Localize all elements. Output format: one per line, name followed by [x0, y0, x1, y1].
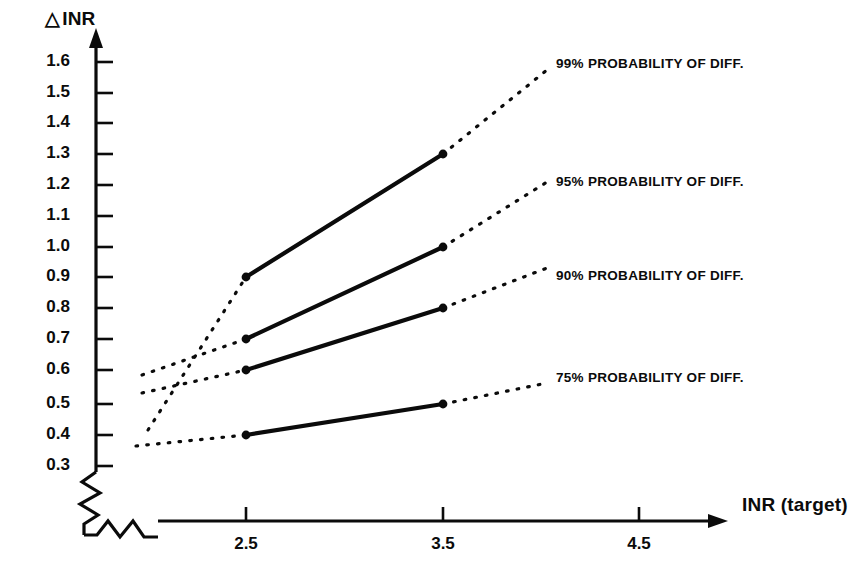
series-99-curve [148, 70, 547, 430]
series-label-99: 99% PROBABILITY OF DIFF. [556, 56, 744, 71]
x-axis [84, 507, 728, 537]
y-tick-label: 1.1 [22, 205, 70, 225]
data-point-marker [439, 400, 448, 409]
series-90-curve [142, 268, 547, 393]
y-tick-label: 1.4 [22, 112, 70, 132]
x-tick-label: 3.5 [413, 534, 473, 554]
y-tick-label: 1.2 [22, 174, 70, 194]
y-tick-label: 0.6 [22, 359, 70, 379]
y-tick-label: 0.9 [22, 266, 70, 286]
y-tick-label: 1.6 [22, 51, 70, 71]
y-tick-label: 0.3 [22, 455, 70, 475]
series-label-90: 90% PROBABILITY OF DIFF. [556, 268, 744, 283]
data-point-marker [242, 366, 251, 375]
y-tick-label: 0.5 [22, 393, 70, 413]
series-label-95: 95% PROBABILITY OF DIFF. [556, 174, 744, 189]
data-point-marker [439, 150, 448, 159]
data-point-marker [242, 335, 251, 344]
data-point-marker [242, 431, 251, 440]
y-tick-label: 1.3 [22, 143, 70, 163]
data-point-marker [439, 304, 448, 313]
y-axis [80, 28, 113, 535]
chart-plot-area [0, 0, 857, 569]
y-tick-label: 0.7 [22, 328, 70, 348]
series-95-curve [142, 182, 547, 375]
data-point-marker [242, 273, 251, 282]
y-tick-label: 1.0 [22, 236, 70, 256]
chart-figure: △INR INR (target) 1.6 1.5 1.4 1.3 1.2 1.… [0, 0, 857, 569]
y-axis-title: △INR [45, 7, 96, 30]
data-point-marker [439, 243, 448, 252]
x-tick-label: 2.5 [216, 534, 276, 554]
x-tick-label: 4.5 [609, 534, 669, 554]
x-axis-title: INR (target) [742, 494, 848, 516]
y-tick-label: 1.5 [22, 82, 70, 102]
y-axis-title-text: INR [62, 8, 95, 29]
series-label-75: 75% PROBABILITY OF DIFF. [556, 370, 744, 385]
series-75-curve [136, 383, 547, 446]
y-tick-label: 0.8 [22, 297, 70, 317]
y-tick-label: 0.4 [22, 424, 70, 444]
delta-icon: △ [45, 8, 60, 29]
